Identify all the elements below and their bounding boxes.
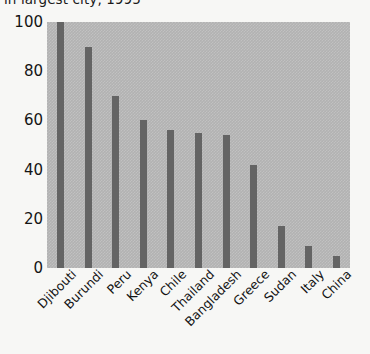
y-tick-label: 20 [0, 211, 43, 226]
y-tick-label: 40 [0, 162, 43, 177]
y-tick-label: 80 [0, 64, 43, 79]
plot-area [47, 22, 350, 268]
x-axis: DjiboutiBurundiPeruKenyaChileThailandBan… [47, 268, 350, 354]
y-tick-label: 100 [0, 15, 43, 30]
bar [305, 246, 312, 268]
bar [195, 133, 202, 268]
y-tick-label: 0 [0, 261, 43, 276]
y-tick-label: 60 [0, 113, 43, 128]
bar [85, 47, 92, 268]
bar [112, 96, 119, 268]
bar [333, 256, 340, 268]
bar-chart: in largest city, 1995 020406080100 Djibo… [0, 0, 370, 354]
bar [140, 120, 147, 268]
x-tick-label: China [320, 268, 354, 302]
bar [223, 135, 230, 268]
bar [278, 226, 285, 268]
bar [250, 165, 257, 268]
bar [167, 130, 174, 268]
bar [57, 22, 64, 268]
